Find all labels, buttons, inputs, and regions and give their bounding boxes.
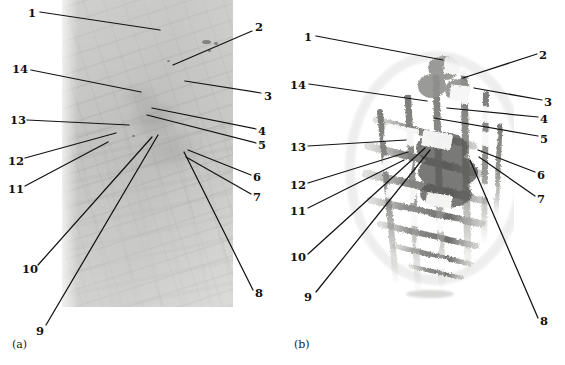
callout-label-10: 10: [22, 264, 38, 275]
callout-label-12: 12: [8, 156, 24, 167]
panel-b: 1234567891011121314 (b): [282, 0, 565, 365]
callout-label-9: 9: [36, 326, 44, 337]
callout-label-1: 1: [28, 8, 36, 19]
callout-label-7: 7: [537, 194, 545, 205]
callout-label-10: 10: [290, 252, 306, 263]
photo-left-edge-fade: [62, 0, 78, 307]
photo-debris-speck: [214, 42, 218, 45]
photo-bottom-highlight: [62, 157, 233, 307]
callout-label-8: 8: [255, 288, 263, 299]
callout-label-11: 11: [8, 184, 24, 195]
callout-label-3: 3: [544, 97, 552, 108]
callout-label-4: 4: [540, 114, 548, 125]
callout-label-1: 1: [304, 32, 312, 43]
panel-a: 1234567891011121314 (a): [0, 0, 283, 365]
micrograph-mesh-b: [324, 28, 514, 303]
callout-label-3: 3: [264, 91, 272, 102]
photo-debris-speck: [167, 60, 170, 62]
callout-label-5: 5: [540, 134, 548, 145]
photo-debris-speck: [202, 40, 211, 44]
panel-caption-b: (b): [294, 338, 310, 351]
callout-label-12: 12: [290, 180, 306, 191]
callout-label-5: 5: [258, 140, 266, 151]
callout-label-6: 6: [537, 170, 545, 181]
callout-label-14: 14: [290, 80, 306, 91]
photo-top-highlight: [62, 0, 233, 120]
callout-label-7: 7: [253, 192, 261, 203]
photo-debris-speck: [208, 49, 211, 52]
callout-label-8: 8: [540, 316, 548, 327]
callout-label-4: 4: [258, 126, 266, 137]
callout-label-2: 2: [255, 22, 263, 33]
callout-label-13: 13: [10, 115, 26, 126]
panel-caption-a: (a): [12, 338, 27, 351]
micrograph-photo-a: [62, 0, 233, 307]
callout-label-9: 9: [304, 292, 312, 303]
callout-label-13: 13: [290, 142, 306, 153]
callout-label-11: 11: [290, 206, 306, 217]
mesh-skeleton-svg: [324, 28, 514, 303]
callout-label-2: 2: [539, 50, 547, 61]
photo-debris-speck: [132, 135, 135, 137]
callout-label-6: 6: [253, 172, 261, 183]
figure-root: 1234567891011121314 (a): [0, 0, 565, 365]
callout-label-14: 14: [12, 64, 28, 75]
